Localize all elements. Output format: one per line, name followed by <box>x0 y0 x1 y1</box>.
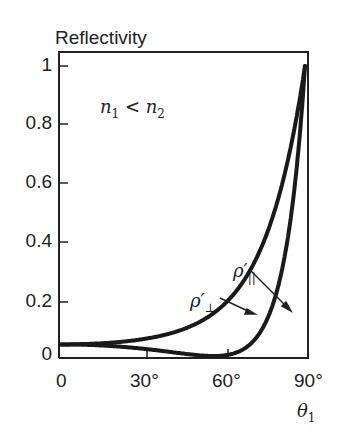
reflectivity-plot <box>0 0 339 434</box>
rho-parallel-curve <box>61 66 305 356</box>
rho-perp-curve <box>61 66 305 344</box>
y-ticks <box>59 66 68 302</box>
